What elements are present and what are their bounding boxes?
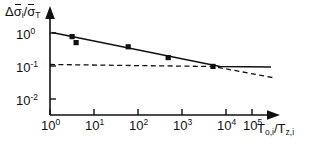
x-tick-label-1e4: 104 [217, 118, 236, 133]
x-tick-mantissa: 10 [85, 118, 99, 133]
y-axis-title: Δσi/σT [5, 4, 40, 19]
y-axis-title-delta: Δ [5, 4, 14, 19]
y-axis-ticks [50, 33, 56, 99]
x-tick-mantissa: 10 [217, 118, 231, 133]
x-tick-label-1e0: 100 [41, 118, 60, 133]
data-point [74, 40, 79, 45]
x-tick-exponent: 4 [231, 117, 236, 127]
x-tick-exponent: 1 [99, 117, 104, 127]
x-tick-mantissa: 10 [173, 118, 187, 133]
y-tick-exponent: -1 [30, 59, 38, 69]
y-axis-title-sub-i: i [22, 10, 24, 20]
x-axis-title: To,i/Tz,i [257, 121, 294, 136]
x-tick-mantissa: 10 [243, 118, 257, 133]
y-axis-title-numerator: σ [14, 4, 22, 19]
y-tick-label-1e-1: 10-1 [16, 60, 38, 75]
solid-fit-line [52, 33, 271, 68]
data-point [210, 64, 215, 69]
x-axis-ticks [50, 109, 252, 115]
data-point [166, 55, 171, 60]
y-tick-mantissa: 10 [16, 60, 30, 75]
x-tick-exponent: 2 [143, 117, 148, 127]
y-axis-title-sigma-i: σ [14, 4, 22, 19]
y-tick-exponent: -2 [30, 92, 38, 102]
y-tick-label-1e0: 100 [16, 27, 35, 42]
x-tick-mantissa: 10 [129, 118, 143, 133]
y-tick-label-1e-2: 10-2 [16, 93, 38, 108]
y-tick-mantissa: 10 [16, 93, 30, 108]
data-point [70, 34, 75, 39]
x-axis-title-sub-zi: z,i [286, 127, 295, 137]
x-tick-exponent: 5 [257, 117, 262, 127]
x-axis-title-t-z: T [278, 121, 286, 136]
x-tick-exponent: 3 [187, 117, 192, 127]
x-tick-mantissa: 10 [41, 118, 55, 133]
x-tick-label-1e3: 103 [173, 118, 192, 133]
x-tick-label-1e1: 101 [85, 118, 104, 133]
y-axis-title-sub-t: T [35, 10, 40, 20]
x-axis-title-sub-oi: o,i [265, 127, 274, 137]
chart-figure: Δσi/σT To,i/Tz,i 100 10-1 10-2 100 101 1… [0, 0, 311, 149]
y-tick-mantissa: 10 [16, 27, 30, 42]
x-tick-label-1e2: 102 [129, 118, 148, 133]
y-tick-exponent: 0 [30, 26, 35, 36]
x-tick-label-1e5: 105 [243, 118, 262, 133]
data-point [126, 44, 131, 49]
x-tick-exponent: 0 [55, 117, 60, 127]
